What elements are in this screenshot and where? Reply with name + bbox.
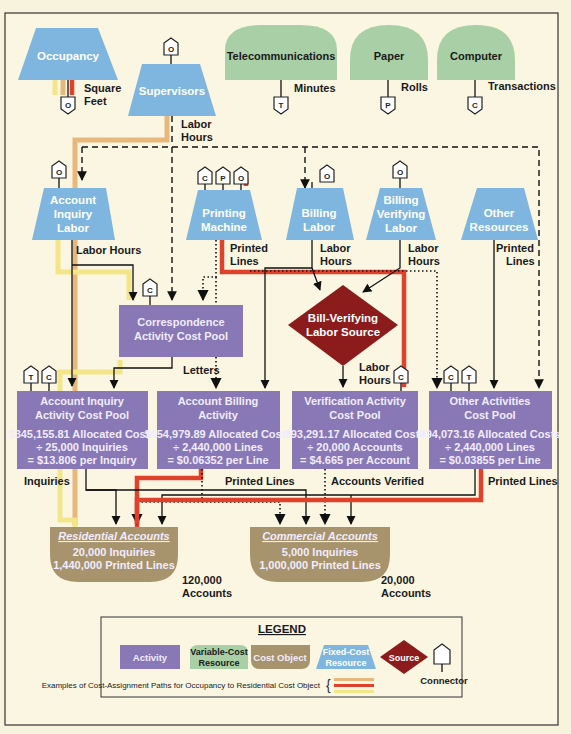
svg-text:P: P <box>220 174 226 183</box>
svg-text:{: { <box>326 677 331 693</box>
svg-text:÷ 2,440,000 Lines: ÷ 2,440,000 Lines <box>173 441 263 453</box>
svg-text:Connector: Connector <box>420 675 468 686</box>
svg-text:÷ 2,440,000 Lines: ÷ 2,440,000 Lines <box>445 441 535 453</box>
svg-text:= $0.06352 per Line: = $0.06352 per Line <box>167 454 268 466</box>
svg-text:C: C <box>448 373 454 382</box>
svg-text:Bill-Verifying: Bill-Verifying <box>308 312 378 324</box>
svg-text:Account Billing: Account Billing <box>178 395 259 407</box>
svg-text:Labor: Labor <box>408 242 439 254</box>
activity-verification[interactable]: Verification Activity Cost Pool $93,291.… <box>285 391 426 469</box>
svg-text:Account: Account <box>50 194 96 206</box>
svg-text:Accounts: Accounts <box>381 587 431 599</box>
legend: LEGEND Activity Variable-Cost Resource C… <box>42 617 468 697</box>
svg-text:Labor Source: Labor Source <box>306 326 380 338</box>
svg-text:Commercial Accounts: Commercial Accounts <box>262 530 378 542</box>
driver-feet: Feet <box>84 95 107 107</box>
svg-text:O: O <box>168 45 174 54</box>
resource-account-inquiry-labor[interactable]: Account Inquiry Labor <box>32 188 115 240</box>
svg-text:Hours: Hours <box>320 255 352 267</box>
activity-account-inquiry[interactable]: Account Inquiry Activity Cost Pool $345,… <box>9 391 156 469</box>
svg-text:÷ 20,000 Accounts: ÷ 20,000 Accounts <box>307 441 403 453</box>
resource-telecommunications[interactable]: Telecommunications <box>225 25 337 80</box>
resource-computer[interactable]: Computer <box>437 25 515 80</box>
svg-text:Printing: Printing <box>202 207 245 219</box>
svg-text:= $4.665 per Account: = $4.665 per Account <box>300 454 410 466</box>
svg-text:Cost Object: Cost Object <box>253 652 307 663</box>
svg-text:Printed Lines: Printed Lines <box>488 475 558 487</box>
svg-text:Labor: Labor <box>359 361 390 373</box>
svg-text:Activity: Activity <box>198 409 239 421</box>
activity-correspondence[interactable]: Correspondence Activity Cost Pool <box>119 305 243 357</box>
svg-text:Billing: Billing <box>383 194 418 206</box>
svg-text:Activity Cost Pool: Activity Cost Pool <box>134 330 228 342</box>
svg-text:Accounts Verified: Accounts Verified <box>331 475 424 487</box>
svg-text:Labor Hours: Labor Hours <box>76 244 141 256</box>
svg-text:$94,073.16 Allocated Costs: $94,073.16 Allocated Costs <box>420 428 561 440</box>
svg-text:Labor: Labor <box>320 242 351 254</box>
svg-text:$93,291.17 Allocated Costs: $93,291.17 Allocated Costs <box>285 428 426 440</box>
svg-text:Printed: Printed <box>496 242 534 254</box>
svg-text:1,440,000 Printed Lines: 1,440,000 Printed Lines <box>53 559 175 571</box>
svg-text:Printed Lines: Printed Lines <box>225 475 295 487</box>
resource-paper[interactable]: Paper <box>350 25 428 80</box>
svg-text:C: C <box>472 101 478 110</box>
svg-text:C: C <box>46 373 52 382</box>
svg-text:Minutes: Minutes <box>294 82 336 94</box>
svg-text:Machine: Machine <box>201 221 247 233</box>
svg-text:Fixed-Cost: Fixed-Cost <box>323 647 370 657</box>
svg-text:C: C <box>398 373 404 382</box>
resource-label: Paper <box>374 50 405 62</box>
svg-text:120,000: 120,000 <box>182 574 222 586</box>
svg-text:Resource: Resource <box>198 658 239 668</box>
svg-text:Resources: Resources <box>470 221 529 233</box>
svg-text:Accounts: Accounts <box>182 587 232 599</box>
svg-text:Variable-Cost: Variable-Cost <box>190 647 248 657</box>
svg-text:Hours: Hours <box>181 131 213 143</box>
svg-text:Other: Other <box>484 207 515 219</box>
svg-text:Hours: Hours <box>359 374 391 386</box>
svg-text:Labor: Labor <box>303 221 335 233</box>
activity-account-billing[interactable]: Account Billing Activity $154,979.89 All… <box>145 391 292 469</box>
svg-text:Letters: Letters <box>183 364 220 376</box>
svg-text:O: O <box>238 174 244 183</box>
svg-text:Other Activities: Other Activities <box>450 395 531 407</box>
svg-text:Activity: Activity <box>133 652 168 663</box>
cost-object-residential[interactable]: Residential Accounts 20,000 Inquiries 1,… <box>50 527 178 582</box>
cost-object-commercial[interactable]: Commercial Accounts 5,000 Inquiries 1,00… <box>250 527 390 582</box>
svg-text:20,000: 20,000 <box>381 574 415 586</box>
svg-text:1,000,000 Printed Lines: 1,000,000 Printed Lines <box>259 559 381 571</box>
svg-text:Cost Pool: Cost Pool <box>329 409 380 421</box>
activity-other[interactable]: Other Activities Cost Pool $94,073.16 Al… <box>420 391 561 469</box>
svg-text:= $0.03855 per Line: = $0.03855 per Line <box>439 454 540 466</box>
svg-text:Labor: Labor <box>181 118 212 130</box>
svg-text:O: O <box>56 168 62 177</box>
svg-text:Transactions: Transactions <box>488 80 556 92</box>
connectors-printing-machine: C P O <box>198 167 248 184</box>
svg-text:Examples of Cost-Assignment Pa: Examples of Cost-Assignment Paths for Oc… <box>42 681 321 690</box>
resource-printing-machine[interactable]: Printing Machine <box>186 190 262 240</box>
resource-billing-labor[interactable]: Billing Labor <box>286 188 354 240</box>
cost-assignment-diagram: Occupancy O Square Feet O Supervisors La… <box>0 0 571 734</box>
resource-label: Supervisors <box>139 85 205 97</box>
svg-text:P: P <box>385 101 391 110</box>
svg-text:20,000 Inquiries: 20,000 Inquiries <box>73 546 156 558</box>
svg-text:÷ 25,000 Inquiries: ÷ 25,000 Inquiries <box>36 441 128 453</box>
svg-text:Hours: Hours <box>408 255 440 267</box>
svg-text:T: T <box>29 373 34 382</box>
svg-text:$345,155.81 Allocated Costs: $345,155.81 Allocated Costs <box>9 428 156 440</box>
svg-text:Printed: Printed <box>230 242 268 254</box>
svg-text:Verifying: Verifying <box>377 208 426 220</box>
svg-text:Residential Accounts: Residential Accounts <box>58 530 169 542</box>
svg-text:O: O <box>65 101 71 110</box>
svg-text:= $13.806 per Inquiry: = $13.806 per Inquiry <box>27 454 137 466</box>
svg-text:5,000 Inquiries: 5,000 Inquiries <box>282 546 358 558</box>
svg-text:T: T <box>279 101 284 110</box>
svg-text:Labor: Labor <box>57 222 89 234</box>
legend-title: LEGEND <box>258 623 306 635</box>
svg-text:Inquiry: Inquiry <box>54 208 93 220</box>
svg-text:Cost Pool: Cost Pool <box>464 409 515 421</box>
svg-text:O: O <box>324 172 330 181</box>
svg-text:Correspondence: Correspondence <box>137 316 224 328</box>
svg-text:Labor: Labor <box>385 222 417 234</box>
svg-text:T: T <box>467 373 472 382</box>
